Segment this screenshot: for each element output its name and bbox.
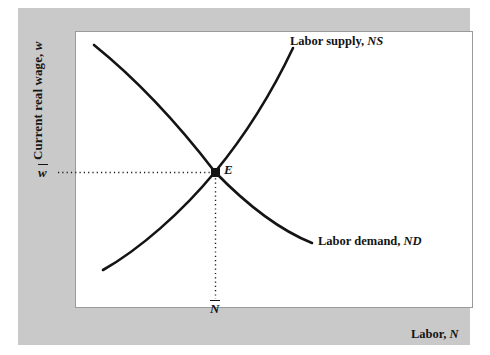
x-tick-overbar-symbol: N [210, 300, 219, 317]
labor-supply-label: Labor supply, NS [290, 34, 383, 49]
labor-supply-label-symbol: NS [367, 34, 383, 48]
y-tick-overbar-symbol: w [38, 164, 47, 181]
labor-supply-label-text: Labor supply, [290, 34, 367, 48]
x-axis-label-symbol: N [449, 327, 458, 341]
y-tick-equilibrium-wage: w [38, 164, 47, 181]
labor-demand-label: Labor demand, ND [318, 234, 422, 249]
x-axis-label: Labor, N [411, 327, 458, 342]
y-axis-label-text: Current real wage, [30, 50, 45, 160]
equilibrium-point-label: E [224, 162, 233, 178]
labor-demand-label-text: Labor demand, [318, 234, 404, 248]
y-axis-label-symbol: w [30, 41, 45, 50]
labor-demand-label-symbol: ND [404, 234, 422, 248]
plot-area [75, 31, 473, 308]
x-tick-equilibrium-labor: N [210, 300, 219, 317]
figure-panel [18, 8, 470, 345]
x-axis-label-text: Labor, [411, 327, 449, 341]
y-axis-label: Current real wage, w [30, 0, 52, 160]
